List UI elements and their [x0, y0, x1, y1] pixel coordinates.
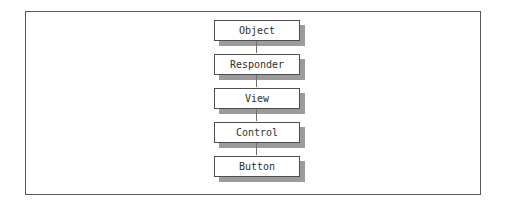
hierarchy-node-control: Control [214, 122, 312, 156]
node-label: Object [239, 26, 275, 36]
node-box[interactable]: Button [214, 156, 300, 177]
node-label: Responder [230, 60, 284, 70]
node-box[interactable]: Object [214, 20, 300, 41]
node-box[interactable]: Responder [214, 54, 300, 75]
node-label: Button [239, 162, 275, 172]
hierarchy-node-button: Button [214, 156, 312, 190]
node-label: Control [236, 128, 278, 138]
class-hierarchy-stack: Object Responder View [214, 20, 312, 190]
node-box[interactable]: Control [214, 122, 300, 143]
hierarchy-node-view: View [214, 88, 312, 122]
connector-line [256, 109, 257, 121]
figure-root: Object Responder View [0, 0, 509, 206]
connector-line [256, 75, 257, 87]
node-box[interactable]: View [214, 88, 300, 109]
diagram-frame: Object Responder View [25, 11, 481, 195]
connector-line [256, 41, 257, 53]
node-label: View [245, 94, 269, 104]
connector-line [256, 143, 257, 155]
hierarchy-node-object: Object [214, 20, 312, 54]
hierarchy-node-responder: Responder [214, 54, 312, 88]
